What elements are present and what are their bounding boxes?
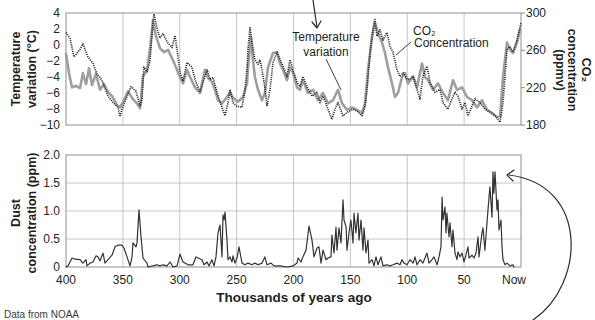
y-left-tick-label: −8	[46, 102, 60, 116]
x-tick-label: Now	[502, 273, 526, 287]
x-tick-label: 50	[457, 273, 471, 287]
down-arrow-icon	[312, 0, 321, 28]
temperature-co2-panel: 420−2−4−6−8−10300260220180 Temperature v…	[9, 0, 593, 132]
y-left-tick-label: −6	[46, 86, 60, 100]
x-tick-label: 100	[397, 273, 417, 287]
dust-panel: 2.01.51.00.5040035030025020015010050Now …	[9, 148, 571, 320]
curved-arrow-icon	[507, 170, 571, 320]
x-axis-title: Thousands of years ago	[216, 290, 371, 305]
dust-axis-title-line-2: concentration (ppm)	[25, 153, 39, 274]
x-tick-label: 350	[113, 273, 133, 287]
y-left-tick-label: 0	[53, 260, 60, 274]
x-tick-label: 400	[56, 273, 76, 287]
temperature-leader-line	[326, 59, 341, 90]
x-tick-label: 300	[170, 273, 190, 287]
y-left-tick-label: 0	[53, 38, 60, 52]
y-left-tick-label: 2.0	[43, 148, 60, 162]
temperature-axis-title-line-1: Temperature	[9, 32, 23, 107]
y-left-tick-label: −10	[40, 118, 61, 132]
y-right-tick-label: 220	[526, 81, 546, 95]
co2-leader-line	[396, 42, 411, 55]
co2-axis-title-line-1: CO₂	[579, 58, 593, 82]
temperature-axis-title-line-2: variation (°C)	[25, 30, 39, 108]
y-right-tick-label: 300	[526, 6, 546, 20]
temperature-annotation-line-2: variation	[303, 45, 348, 59]
y-left-tick-label: 4	[53, 6, 60, 20]
y-right-tick-label: 260	[526, 43, 546, 57]
temperature-annotation-line-1: Temperature	[292, 30, 360, 44]
co2-annotation-line-2: Concentration	[414, 36, 489, 50]
co2-axis-title-line-3: (ppmv)	[553, 49, 567, 91]
y-right-tick-label: 180	[526, 118, 546, 132]
y-left-tick-label: −2	[46, 54, 60, 68]
x-tick-label: 200	[283, 273, 303, 287]
x-tick-label: 150	[340, 273, 360, 287]
y-left-tick-label: −4	[46, 70, 60, 84]
y-left-tick-label: 1.5	[43, 176, 60, 190]
dust-axis-title-line-1: Dust	[9, 198, 23, 227]
dust-concentration-line	[66, 172, 514, 267]
source-note: Data from NOAA	[4, 309, 79, 320]
y-left-tick-label: 0.5	[43, 232, 60, 246]
bottom-panel-gridlines	[66, 155, 521, 267]
x-tick-label: 250	[227, 273, 247, 287]
climate-record-figure: 420−2−4−6−8−10300260220180 Temperature v…	[0, 0, 595, 320]
y-left-tick-label: 1.0	[43, 204, 60, 218]
y-left-tick-label: 2	[53, 22, 60, 36]
bottom-panel-series	[66, 172, 514, 267]
